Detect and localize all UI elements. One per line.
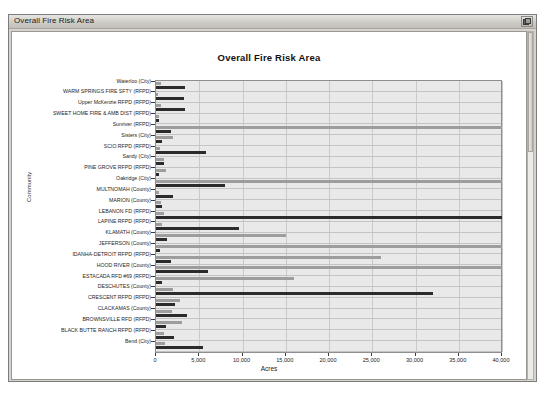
y-axis-tick-label: MULTNOMAH (County) (97, 186, 151, 192)
y-axis-tick-mark (151, 232, 155, 233)
x-axis-tick-label: 35,000 (449, 357, 466, 363)
x-axis-tick-label: 20,000 (319, 357, 336, 363)
bar-lower (156, 216, 502, 219)
row-separator (156, 167, 501, 168)
bar-lower (156, 270, 208, 273)
y-axis-tick-labels: Waterloo (City)WARM SPRINGS FIRE SFTY (R… (32, 80, 151, 353)
row-separator (156, 102, 501, 103)
row-separator (156, 329, 501, 330)
x-axis-tick-label: 40,000 (492, 357, 509, 363)
y-axis-tick-mark (151, 243, 155, 244)
bar-upper (156, 201, 161, 204)
bar-lower (156, 130, 171, 133)
bar-upper (156, 234, 286, 237)
bar-lower (156, 86, 185, 89)
bar-lower (156, 303, 175, 306)
row-separator (156, 91, 501, 92)
y-axis-tick-label: MARION (County) (109, 197, 151, 203)
plot-area (155, 80, 502, 353)
bar-upper (156, 180, 502, 183)
restore-icon[interactable] (521, 16, 533, 27)
window-titlebar[interactable]: Overall Fire Risk Area (9, 15, 536, 29)
bar-upper (156, 277, 294, 280)
x-axis-tick-label: 30,000 (406, 357, 423, 363)
row-separator (156, 351, 501, 352)
x-axis-tick-mark (155, 353, 156, 356)
y-axis-tick-mark (151, 124, 155, 125)
row-separator (156, 134, 501, 135)
bar-upper (156, 93, 158, 96)
bar-lower (156, 205, 162, 208)
y-axis-tick-mark (151, 211, 155, 212)
y-axis-tick-label: Sunriver (RFPD) (113, 121, 151, 127)
window-title: Overall Fire Risk Area (14, 16, 94, 25)
row-separator (156, 264, 501, 265)
y-axis-tick-mark (151, 81, 155, 82)
bar-lower (156, 173, 159, 176)
y-axis-tick-label: CRESCENT RFPD (RFPD) (88, 294, 151, 300)
screenshot-root: Overall Fire Risk Area Overall Fire Risk… (0, 0, 545, 397)
chart-window: Overall Fire Risk Area Overall Fire Risk… (8, 14, 537, 382)
x-axis-tick-mark (198, 353, 199, 356)
row-separator (156, 318, 501, 319)
x-axis-tick-mark (285, 353, 286, 356)
y-axis-tick-mark (151, 319, 155, 320)
y-axis-tick-mark (151, 200, 155, 201)
chart-client-area: Overall Fire Risk Area Community Waterlo… (11, 31, 527, 380)
bar-lower (156, 184, 225, 187)
y-axis-tick-label: SCIO RFPD (RFPD) (104, 143, 151, 149)
bar-upper (156, 310, 172, 313)
grid-line (502, 81, 503, 352)
x-axis-tick-mark (501, 353, 502, 356)
bar-lower (156, 314, 187, 317)
bar-lower (156, 260, 171, 263)
y-axis-tick-label: Waterloo (City) (117, 78, 151, 84)
bar-lower (156, 336, 174, 339)
row-separator (156, 188, 501, 189)
bar-upper (156, 223, 162, 226)
x-axis-tick-mark (415, 353, 416, 356)
y-axis-tick-mark (151, 276, 155, 277)
bar-lower (156, 238, 167, 241)
bar-upper (156, 321, 182, 324)
row-separator (156, 123, 501, 124)
row-separator (156, 340, 501, 341)
row-separator (156, 199, 501, 200)
bar-lower (156, 346, 203, 349)
bar-upper (156, 115, 159, 118)
x-axis-tick-mark (328, 353, 329, 356)
bar-lower (156, 195, 173, 198)
y-axis-tick-mark (151, 308, 155, 309)
bar-upper (156, 212, 164, 215)
bar-lower (156, 97, 184, 100)
bar-lower (156, 140, 162, 143)
vertical-scrollbar[interactable] (527, 31, 534, 380)
bar-upper (156, 332, 164, 335)
row-separator (156, 210, 501, 211)
y-axis-tick-mark (151, 286, 155, 287)
y-axis-tick-mark (151, 91, 155, 92)
row-separator (156, 243, 501, 244)
bar-upper (156, 299, 180, 302)
bar-lower (156, 151, 206, 154)
y-axis-tick-label: LEBANON FD (RFPD) (99, 208, 151, 214)
y-axis-tick-mark (151, 330, 155, 331)
bar-upper (156, 169, 166, 172)
vertical-scrollbar-thumb[interactable] (528, 32, 533, 152)
y-axis-tick-label: SWEET HOME FIRE & AMB DIST (RFPD) (53, 110, 151, 116)
bar-upper (156, 245, 502, 248)
row-separator (156, 253, 501, 254)
bar-upper (156, 104, 161, 107)
y-axis-tick-label: JEFFERSON (County) (99, 240, 151, 246)
bar-lower (156, 325, 166, 328)
y-axis-tick-mark (151, 178, 155, 179)
y-axis-tick-label: Bend (City) (125, 338, 151, 344)
chart-title: Overall Fire Risk Area (12, 52, 526, 63)
y-axis-tick-mark (151, 102, 155, 103)
bar-upper (156, 288, 173, 291)
y-axis-tick-label: KLAMATH (County) (106, 229, 151, 235)
row-separator (156, 113, 501, 114)
row-separator (156, 232, 501, 233)
y-axis-tick-label: HOOD RIVER (County) (97, 262, 151, 268)
y-axis-tick-label: LAPINE RFPD (RFPD) (98, 218, 151, 224)
